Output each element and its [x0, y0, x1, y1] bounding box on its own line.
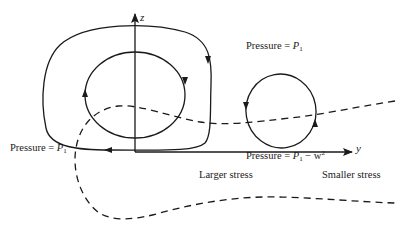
pressure-text: Pressure =: [246, 150, 293, 161]
pressure-sub: 1: [63, 147, 67, 155]
right-arrow-right-icon: [312, 119, 318, 127]
inner-arrow-left-icon: [82, 89, 88, 97]
pressure-text: Pressure =: [246, 40, 293, 51]
interface-curve: [75, 101, 395, 219]
y-axis-label: y: [356, 143, 361, 154]
pressure-suffix: − w: [303, 150, 322, 161]
outer-loop: [43, 26, 211, 151]
pressure-label-bottom-right: Pressure = P1 − w2: [246, 150, 325, 163]
pressure-label-left: Pressure = P1: [10, 143, 67, 155]
z-axis-label: z: [140, 12, 144, 23]
smaller-stress-label: Smaller stress: [322, 170, 381, 181]
pressure-sup: 2: [321, 149, 325, 157]
right-arrow-left-icon: [243, 102, 249, 110]
right-loop: [240, 68, 322, 153]
pressure-text: Pressure =: [10, 142, 57, 153]
larger-stress-label: Larger stress: [199, 170, 253, 181]
diagram-canvas: [0, 0, 407, 228]
pressure-label-top-right: Pressure = P1: [246, 41, 303, 53]
outer-arrow-bottom-icon: [104, 147, 112, 153]
flow-diagram: z y Pressure = P1 Pressure = P1 Pressure…: [0, 0, 407, 228]
pressure-sub: 1: [299, 45, 303, 53]
